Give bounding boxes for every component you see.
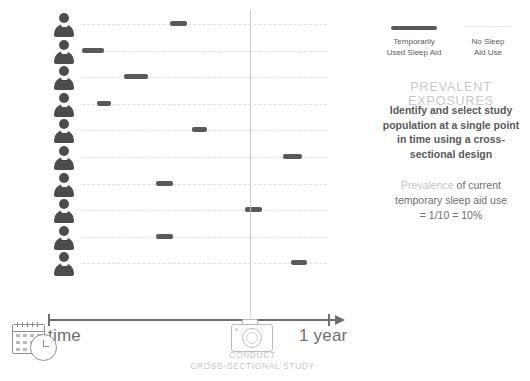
exposure-segment xyxy=(291,260,307,265)
study-caption-line1: CONDUCT xyxy=(160,350,345,361)
unexposed-track xyxy=(82,210,327,211)
study-point-caption: CONDUCT CROSS-SECTIONAL STUDY xyxy=(160,350,345,372)
subject-row xyxy=(0,39,370,65)
prevalence-block: Prevalence of current temporary sleep ai… xyxy=(380,178,522,223)
person-icon xyxy=(52,119,76,143)
exposure-segment xyxy=(97,101,112,106)
subject-row xyxy=(0,198,370,224)
person-icon xyxy=(52,199,76,223)
legend-exposed-line1: Temporarily xyxy=(378,36,450,47)
axis-tick-end xyxy=(328,314,330,326)
unexposed-track xyxy=(82,51,327,52)
panel-description: Identify and select study population at … xyxy=(380,103,522,161)
person-icon xyxy=(52,93,76,117)
person-icon xyxy=(52,66,76,90)
subject-row xyxy=(0,12,370,38)
legend-unexposed-line1: No Sleep xyxy=(452,36,524,47)
chart-legend: Temporarily Used Sleep Aid No Sleep Aid … xyxy=(378,26,528,74)
subject-row xyxy=(0,145,370,171)
calendar-header xyxy=(13,325,44,332)
subject-row xyxy=(0,251,370,277)
person-icon xyxy=(52,252,76,276)
exposure-segment xyxy=(283,154,303,159)
subject-row xyxy=(0,118,370,144)
unexposed-track xyxy=(82,104,327,105)
exposure-segment xyxy=(82,48,104,53)
axis-arrowhead xyxy=(335,315,345,325)
person-icon xyxy=(52,40,76,64)
subject-row xyxy=(0,65,370,91)
exposure-segment xyxy=(124,74,149,79)
unexposed-track xyxy=(82,24,327,25)
time-axis xyxy=(44,313,352,327)
person-icon xyxy=(52,226,76,250)
right-info-panel: Temporarily Used Sleep Aid No Sleep Aid … xyxy=(372,0,530,381)
unexposed-track xyxy=(82,263,327,264)
exposure-segment xyxy=(245,207,262,212)
legend-item-exposed: Temporarily Used Sleep Aid xyxy=(378,26,450,58)
legend-swatch-dashed xyxy=(465,26,511,27)
study-point-vertical-line xyxy=(250,10,251,315)
study-caption-line2: CROSS-SECTIONAL STUDY xyxy=(160,361,345,372)
unexposed-track xyxy=(82,237,327,238)
calendar-clock-icon xyxy=(12,320,60,360)
legend-item-unexposed: No Sleep Aid Use xyxy=(452,26,524,58)
legend-unexposed-line2: Aid Use xyxy=(452,47,524,58)
unexposed-track xyxy=(82,184,327,185)
subject-row xyxy=(0,225,370,251)
person-icon xyxy=(52,146,76,170)
exposure-segment xyxy=(156,181,173,186)
axis-end-label: 1 year xyxy=(299,326,347,346)
unexposed-track xyxy=(82,77,327,78)
exposure-segment xyxy=(156,234,173,239)
subject-row xyxy=(0,172,370,198)
prevalence-lead-word: Prevalence xyxy=(401,179,454,191)
axis-line xyxy=(48,319,336,321)
exposure-segment xyxy=(192,127,207,132)
person-icon xyxy=(52,173,76,197)
prevalence-value: = 1/10 = 10% xyxy=(380,208,522,223)
person-icon xyxy=(52,13,76,37)
camera-icon xyxy=(229,318,273,350)
clock-icon xyxy=(30,334,57,361)
subject-row xyxy=(0,92,370,118)
legend-swatch-solid xyxy=(391,26,437,30)
legend-exposed-line2: Used Sleep Aid xyxy=(378,47,450,58)
timeline-chart-panel: time 1 year xyxy=(0,0,370,381)
infographic-root: time 1 year xyxy=(0,0,530,381)
exposure-segment xyxy=(170,21,187,26)
